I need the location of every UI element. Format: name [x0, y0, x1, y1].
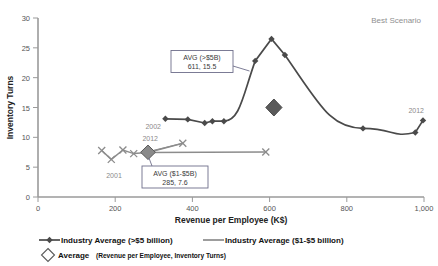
y-tick-label-30: 30 — [22, 14, 30, 23]
data-point-marker — [209, 118, 215, 124]
legend-item-gt5b[interactable]: Industry Average (>$5 billion) — [39, 236, 173, 245]
data-point-marker — [221, 118, 227, 124]
data-point-marker — [202, 120, 208, 126]
x-axis-title: Revenue per Employee (K$) — [175, 215, 288, 225]
data-point-marker — [108, 156, 115, 163]
x-tick-label-600: 600 — [263, 204, 276, 213]
y-tick-label-0: 0 — [26, 193, 30, 202]
point-label-2002: 2002 — [145, 123, 161, 130]
legend-label-gt5b: Industry Average (>$5 billion) — [61, 236, 173, 245]
y-tick-label-10: 10 — [22, 133, 30, 142]
series-1to5b-line — [102, 150, 266, 159]
x-tick-label-400: 400 — [186, 204, 199, 213]
annotation-box-avg-1to5b: AVG ($1-$5B) 285, 7.6 — [142, 158, 208, 188]
legend-diamond-outline-icon — [42, 249, 55, 262]
legend-item-average[interactable]: Average (Revenue per Employee, Inventory… — [42, 249, 226, 262]
data-point-marker — [98, 147, 105, 154]
y-tick-label-5: 5 — [26, 163, 30, 172]
y-axis-title: Inventory Turns — [5, 75, 15, 139]
point-label-2001: 2001 — [106, 172, 122, 179]
annotation-line1: AVG ($1-$5B) — [153, 170, 196, 178]
y-tick-label-15: 15 — [22, 104, 30, 113]
point-label-2012-gt5b: 2012 — [408, 107, 424, 114]
annotation-leader-line — [149, 158, 152, 166]
point-label-2012-1to5b: 2012 — [142, 135, 158, 142]
data-point-marker — [360, 125, 366, 131]
series-1to5b-branch-return-line — [154, 143, 183, 150]
annotation-line2: 285, 7.6 — [162, 179, 187, 186]
annotation-box-avg-gt5b: AVG (>$5B) 611, 15.5 — [171, 51, 250, 73]
legend-sublabel-average: (Revenue per Employee, Inventory Turns) — [96, 252, 226, 260]
series-industry-average-1to5b — [98, 140, 269, 163]
legend-label-average: Average — [58, 251, 90, 260]
legend-label-1to5b: Industry Average ($1-$5 billion) — [225, 236, 344, 245]
legend-diamond-icon — [46, 237, 52, 243]
best-scenario-annotation: Best Scenario — [371, 16, 421, 25]
average-marker-1to5b — [141, 145, 156, 159]
x-tick-label-0: 0 — [36, 204, 40, 213]
average-marker-gt5b — [266, 99, 282, 116]
x-tick-label-1000: 1,000 — [415, 204, 434, 213]
inventory-turns-scatter-line-chart: 30 25 20 15 10 5 0 0 200 400 600 800 1,0… — [0, 0, 438, 266]
axis-group: 30 25 20 15 10 5 0 0 200 400 600 800 1,0… — [5, 14, 433, 225]
annotation-line2: 611, 15.5 — [188, 63, 217, 70]
chart-container: 30 25 20 15 10 5 0 0 200 400 600 800 1,0… — [0, 0, 438, 266]
annotation-line1: AVG (>$5B) — [183, 54, 220, 62]
data-point-marker — [185, 116, 191, 122]
legend-item-1to5b[interactable]: Industry Average ($1-$5 billion) — [203, 236, 344, 245]
annotation-leader-line — [233, 66, 250, 71]
y-tick-label-20: 20 — [22, 74, 30, 83]
x-tick-label-800: 800 — [341, 204, 354, 213]
average-markers-group — [141, 99, 282, 160]
data-point-marker — [162, 116, 168, 122]
x-tick-label-200: 200 — [109, 204, 122, 213]
data-point-marker — [119, 147, 126, 154]
y-tick-label-25: 25 — [22, 44, 30, 53]
chart-legend: Industry Average (>$5 billion) Industry … — [39, 236, 344, 262]
